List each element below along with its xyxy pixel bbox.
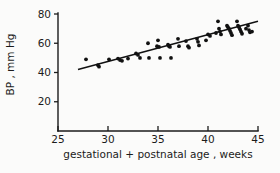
data-point [230, 33, 234, 37]
data-point [216, 19, 220, 23]
data-point [214, 31, 218, 35]
y-axis-tick-label: 80 [38, 8, 51, 20]
data-point [126, 57, 130, 61]
x-axis-tick-label: 40 [201, 133, 214, 145]
data-point [196, 40, 200, 44]
data-point [84, 57, 88, 61]
data-point [138, 56, 142, 60]
data-point [147, 56, 151, 60]
scatter-plot: 204060802530354045 gestational + postnat… [0, 0, 280, 173]
data-point [169, 56, 173, 60]
data-point [168, 45, 172, 49]
data-point [184, 39, 188, 43]
data-point [120, 59, 124, 63]
y-axis-tick-label: 40 [38, 66, 51, 78]
data-point [240, 32, 244, 36]
data-point [156, 38, 160, 42]
data-point [146, 41, 150, 45]
y-axis-title: BP , mm Hg [4, 34, 16, 96]
data-point [235, 19, 239, 23]
x-axis-tick-label: 25 [51, 133, 64, 145]
data-point [250, 30, 254, 34]
data-point [219, 33, 223, 37]
data-point [197, 44, 201, 48]
y-axis-tick-label: 20 [38, 95, 51, 107]
x-axis-title: gestational + postnatal age , weeks [63, 148, 252, 160]
chart-figure: 204060802530354045 gestational + postnat… [0, 0, 280, 173]
data-point [177, 44, 181, 48]
data-point [246, 24, 250, 28]
data-point [208, 34, 212, 38]
data-point [176, 37, 180, 41]
data-point [157, 45, 161, 49]
data-point [204, 38, 208, 42]
data-point [107, 57, 111, 61]
x-axis-tick-label: 35 [151, 133, 164, 145]
data-point [97, 65, 101, 69]
axis-layer [58, 13, 258, 131]
tick-layer [54, 14, 258, 131]
x-axis-tick-label: 30 [101, 133, 114, 145]
data-point [158, 56, 162, 60]
data-point [187, 46, 191, 50]
y-axis-tick-label: 60 [38, 37, 51, 49]
x-axis-tick-label: 45 [251, 133, 264, 145]
